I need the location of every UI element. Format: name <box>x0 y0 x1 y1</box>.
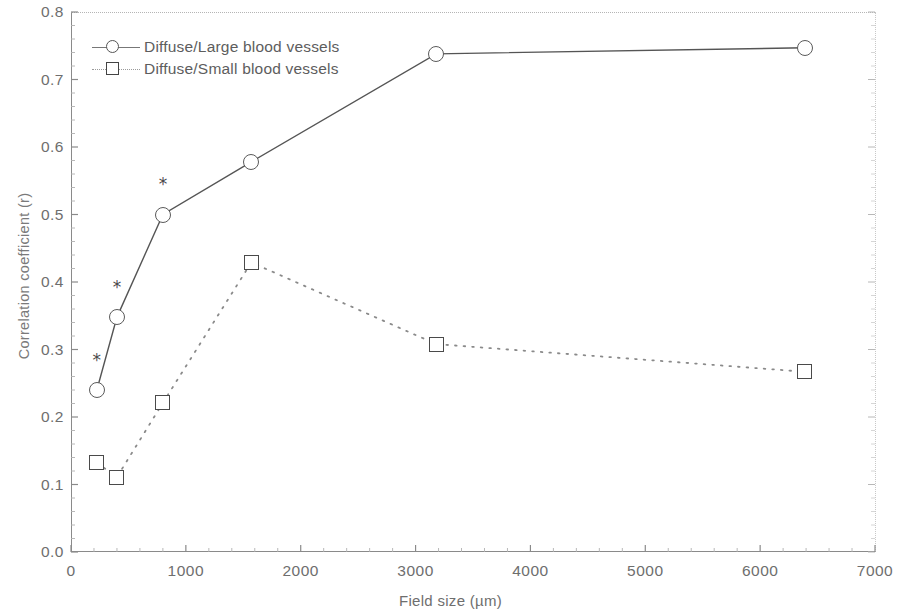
circle-marker-icon <box>106 40 119 53</box>
data-point-square <box>155 395 170 410</box>
square-marker-icon <box>106 62 119 75</box>
data-point-square <box>244 255 259 270</box>
legend-marker-square-sample <box>88 58 144 80</box>
legend-marker-circle-sample <box>88 36 144 58</box>
data-point-circle <box>797 40 813 56</box>
significance-asterisk: * <box>93 351 102 368</box>
legend-label-diffuse-large: Diffuse/Large blood vessels <box>144 38 340 56</box>
data-point-square <box>89 455 104 470</box>
significance-asterisk: * <box>113 278 122 295</box>
data-point-circle <box>89 382 105 398</box>
data-point-circle <box>109 309 125 325</box>
data-point-circle <box>243 154 259 170</box>
legend-item-diffuse-small: Diffuse/Small blood vessels <box>88 58 418 80</box>
data-point-square <box>429 337 444 352</box>
data-point-circle <box>428 46 444 62</box>
significance-asterisk: * <box>159 176 168 193</box>
y-axis-title: Correlation coefficient (r) <box>16 66 32 486</box>
x-axis-title: Field size (µm) <box>0 592 901 609</box>
chart-figure: 0.00.10.20.30.40.50.60.70.8 010002000300… <box>0 0 901 616</box>
data-point-square <box>109 470 124 485</box>
legend-label-diffuse-small: Diffuse/Small blood vessels <box>144 60 339 78</box>
data-point-square <box>797 364 812 379</box>
data-markers-layer: *** <box>0 0 901 616</box>
chart-legend: Diffuse/Large blood vessels Diffuse/Smal… <box>88 36 418 80</box>
legend-item-diffuse-large: Diffuse/Large blood vessels <box>88 36 418 58</box>
data-point-circle <box>155 207 171 223</box>
